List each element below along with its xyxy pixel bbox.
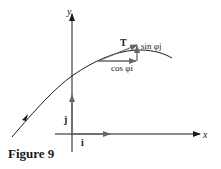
figure-caption: Figure 9 — [8, 146, 54, 162]
horizontal-component-label: cos φi — [111, 63, 133, 73]
tangent-vector-label: T — [120, 37, 127, 48]
y-axis-label: y — [66, 6, 72, 17]
vertical-component-label: sin φj — [141, 41, 161, 51]
x-axis-label: x — [202, 129, 208, 140]
figure-diagram: x y j i T cos φi sin φj — [0, 0, 221, 169]
unit-vector-i-label: i — [81, 137, 84, 148]
curve — [12, 50, 172, 137]
unit-vector-j-label: j — [63, 114, 67, 125]
tangent-vector-T — [98, 45, 137, 61]
